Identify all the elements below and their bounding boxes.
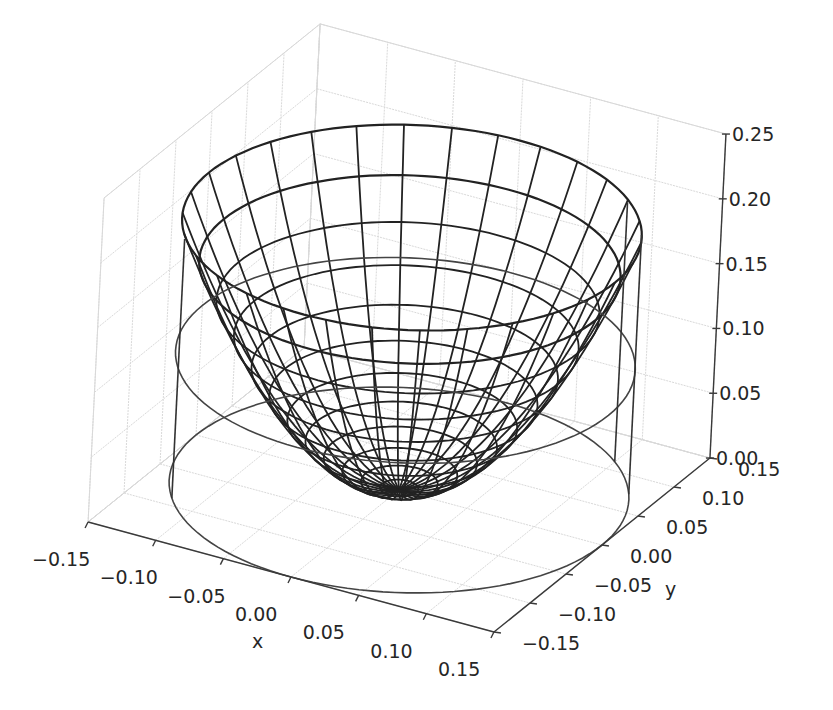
paraboloid-wireframe: [182, 125, 642, 501]
left-grid-z: [91, 283, 307, 457]
x-tick-mark: [85, 522, 88, 528]
cylinder-edge-line: [172, 239, 185, 498]
x-tick-mark: [220, 559, 223, 565]
z-axis-ticks: 0.000.050.100.150.200.25: [706, 123, 774, 469]
surface-ring: [216, 222, 599, 394]
surface-ring: [182, 125, 642, 331]
cylinder-edge-line: [629, 235, 642, 494]
y-axis-ticks: −0.15−0.10−0.050.000.050.100.15: [494, 458, 780, 654]
x-tick-label: −0.05: [167, 585, 225, 607]
x-tick-mark: [356, 595, 359, 601]
left-grid-y: [124, 169, 140, 493]
back-grid-x: [372, 42, 388, 366]
y-tick-mark: [602, 545, 609, 546]
surface-spoke: [399, 263, 633, 491]
x-tick-label: −0.10: [100, 566, 158, 588]
z-axis-line: [710, 134, 726, 458]
cylinder-edge-line: [615, 203, 628, 462]
x-tick-label: 0.05: [303, 621, 345, 643]
back-grid-z: [317, 89, 723, 199]
left-grid-y: [196, 111, 212, 435]
z-tick-label: 0.20: [729, 188, 771, 210]
left-grid-y: [160, 140, 176, 464]
x-tick-label: 0.00: [235, 603, 277, 625]
x-axis-label: x: [252, 630, 263, 652]
3d-wireframe-plot: −0.15−0.10−0.050.000.050.100.15 −0.15−0.…: [0, 0, 833, 710]
surface-spoke: [398, 125, 404, 490]
y-tick-mark: [674, 487, 681, 488]
y-tick-label: −0.05: [594, 574, 652, 596]
z-tick-label: 0.15: [726, 253, 768, 275]
x-tick-mark: [288, 577, 291, 583]
y-axis-label: y: [665, 578, 676, 600]
y-tick-label: 0.00: [630, 545, 672, 567]
y-tick-mark: [638, 516, 645, 517]
back-grid-z: [320, 24, 726, 134]
x-tick-label: 0.15: [438, 658, 480, 680]
y-tick-mark: [530, 603, 537, 604]
surface-ring: [199, 175, 620, 364]
back-grid-z: [314, 154, 720, 264]
pane-grid: [88, 24, 726, 632]
y-tick-label: −0.15: [522, 632, 580, 654]
x-tick-label: 0.10: [370, 640, 412, 662]
z-tick-label: 0.00: [716, 447, 758, 469]
z-tick-label: 0.10: [722, 317, 764, 339]
back-grid-x: [642, 116, 658, 440]
y-tick-mark: [494, 632, 501, 633]
x-tick-label: −0.15: [32, 548, 90, 570]
back-grid-x: [575, 97, 591, 421]
y-tick-label: 0.10: [702, 487, 744, 509]
y-tick-label: −0.10: [558, 603, 616, 625]
x-tick-mark: [153, 540, 156, 546]
left-grid-z: [101, 89, 317, 263]
z-tick-label: 0.25: [732, 123, 774, 145]
y-tick-mark: [566, 574, 573, 575]
x-tick-mark: [423, 614, 426, 620]
y-tick-label: 0.05: [666, 516, 708, 538]
x-axis-ticks: −0.15−0.10−0.050.000.050.100.15: [32, 522, 494, 680]
x-tick-mark: [491, 632, 494, 638]
z-tick-label: 0.05: [719, 382, 761, 404]
